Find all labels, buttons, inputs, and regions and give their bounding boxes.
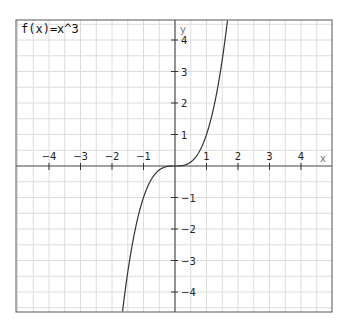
y-tick-label: −4 <box>181 287 196 298</box>
x-tick-label: −2 <box>105 151 120 162</box>
y-tick-label: 4 <box>181 35 187 46</box>
y-tick-label: −3 <box>181 256 196 267</box>
x-tick-label: 4 <box>298 151 304 162</box>
x-tick-label: 1 <box>203 151 209 162</box>
x-axis-label: x <box>320 153 326 164</box>
x-tick-label: 2 <box>235 151 241 162</box>
x-tick-label: −1 <box>136 151 151 162</box>
y-tick-label: −2 <box>181 224 196 235</box>
y-tick-label: 1 <box>181 130 187 141</box>
x-tick-label: −3 <box>73 151 88 162</box>
y-tick-label: 3 <box>181 67 187 78</box>
x-tick-label: −4 <box>42 151 57 162</box>
x-tick-label: 3 <box>266 151 272 162</box>
chart-title: f(x)=x^3 <box>21 22 79 36</box>
y-tick-label: 2 <box>181 98 187 109</box>
y-axis-label: y <box>180 24 186 35</box>
y-tick-label: −1 <box>181 193 196 204</box>
function-plot: −4−3−2−11234−4−3−2−11234 f(x)=x^3 x y <box>0 0 347 328</box>
